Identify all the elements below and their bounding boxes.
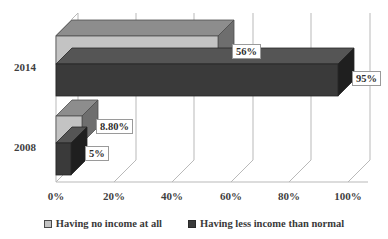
legend-swatch-icon-less-income — [188, 220, 196, 228]
legend-item-no-income: Having no income at all — [44, 218, 162, 229]
legend-swatch-icon-no-income — [44, 220, 52, 228]
data-label-2008-no-income: 8.80% — [96, 119, 133, 134]
data-label-2014-no-income: 56% — [232, 44, 261, 59]
legend: Having no income at all Having less inco… — [0, 218, 388, 229]
x-tick-label-100: 100% — [334, 190, 362, 202]
x-tick-label-60: 60% — [220, 190, 242, 202]
x-tick-label-20: 20% — [103, 190, 125, 202]
y-tick-label-2014: 2014 — [14, 61, 36, 73]
data-label-2014-less-income: 95% — [352, 71, 381, 86]
x-tick-label-80: 80% — [278, 190, 300, 202]
y-tick-label-2008: 2008 — [14, 141, 36, 153]
data-label-2008-less-income: 5% — [85, 146, 109, 161]
bar-2014-less-income — [56, 48, 354, 96]
x-tick-label-0: 0% — [48, 190, 65, 202]
plot-area — [0, 0, 388, 239]
x-tick-label-40: 40% — [161, 190, 183, 202]
legend-label-no-income: Having no income at all — [56, 218, 162, 229]
bar-chart: 2014 2008 0% 20% 40% 60% 80% 100% 56% 95… — [0, 0, 388, 239]
legend-item-less-income: Having less income than normal — [188, 218, 344, 229]
legend-label-less-income: Having less income than normal — [200, 218, 344, 229]
